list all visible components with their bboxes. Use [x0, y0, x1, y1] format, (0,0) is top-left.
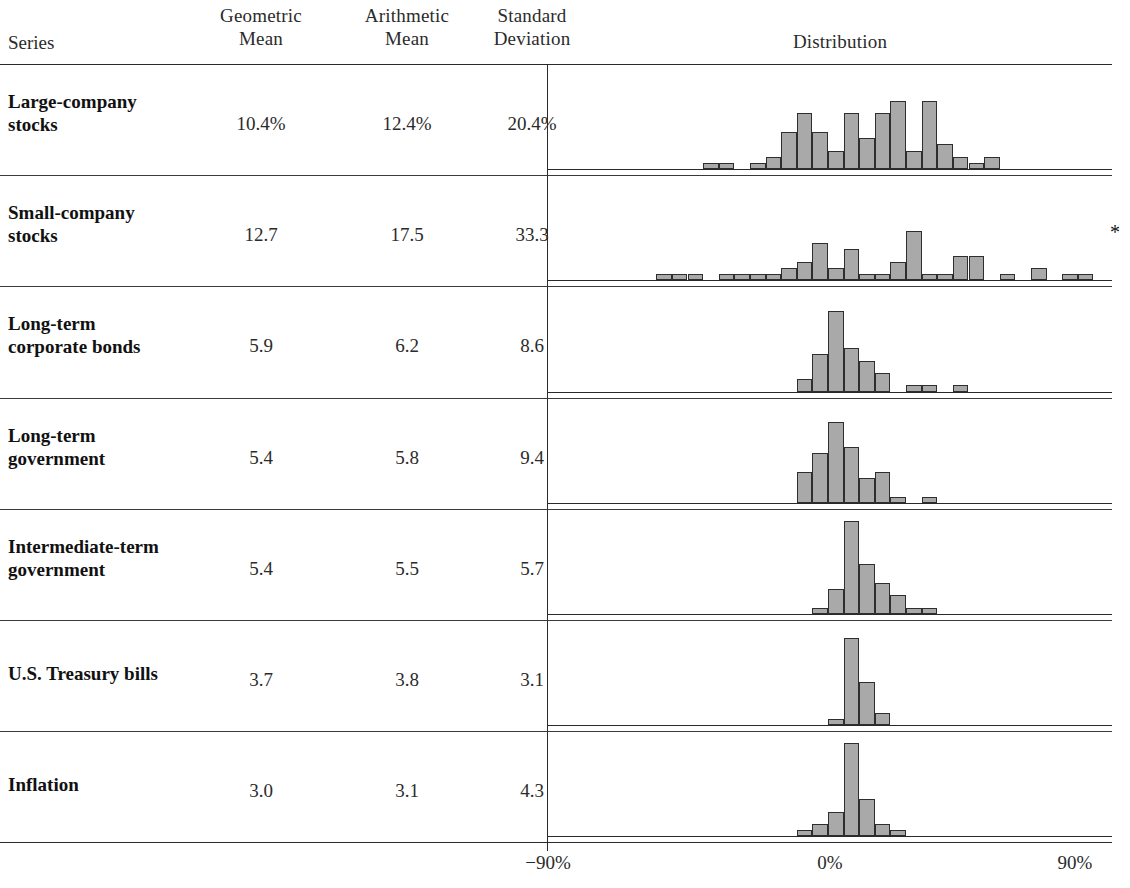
row-label-line2: government [8, 447, 188, 470]
histogram-bar [781, 268, 797, 280]
histogram-bar [859, 564, 875, 614]
distribution-histogram [547, 626, 1112, 725]
histogram-bar [719, 274, 735, 280]
histogram-bar [797, 113, 813, 169]
histogram-bar [906, 151, 922, 170]
histogram-bar [859, 138, 875, 169]
table-row: Long-termcorporate bonds5.96.28.6 [0, 286, 1130, 397]
row-label-line1: Small-company [8, 201, 188, 224]
row-label: Long-termcorporate bonds [8, 312, 188, 358]
cell-geometric-mean: 12.7 [186, 224, 336, 246]
histogram-bar [828, 268, 844, 280]
histogram-bar [719, 163, 735, 169]
row-label: Large-companystocks [8, 90, 188, 136]
histogram-bar [906, 231, 922, 281]
column-header-geometric-mean-line2: Mean [186, 27, 336, 50]
histogram-bar [844, 447, 860, 503]
row-label-line2: stocks [8, 224, 188, 247]
histogram-bar [890, 497, 906, 503]
distribution-histogram [547, 404, 1112, 503]
axis-label-max: 90% [1030, 852, 1120, 874]
histogram-bar [734, 274, 750, 280]
histogram-bar [812, 354, 828, 391]
histogram-bar [812, 132, 828, 169]
axis-label-min: −90% [503, 852, 593, 874]
row-label-line2: government [8, 558, 188, 581]
row-label-line1: U.S. Treasury bills [8, 662, 188, 685]
histogram-bar [672, 274, 688, 280]
cell-geometric-mean: 3.7 [186, 669, 336, 691]
histogram-bar [844, 638, 860, 725]
histogram-bar [844, 521, 860, 614]
histogram-bar [922, 274, 938, 280]
histogram-baseline [547, 836, 1112, 837]
histogram-bar [875, 583, 891, 614]
histogram-bar [875, 472, 891, 503]
histogram-bar [922, 101, 938, 169]
histogram-bar [703, 163, 719, 169]
row-label: Intermediate-termgovernment [8, 535, 188, 581]
histogram-bar [1031, 268, 1047, 280]
histogram-baseline [547, 280, 1112, 281]
axis-baseline [0, 842, 1112, 843]
histogram-bar [890, 595, 906, 614]
histogram-baseline [547, 392, 1112, 393]
histogram-bar [1078, 274, 1094, 280]
histogram-bar [859, 361, 875, 392]
histogram-bar [953, 157, 969, 169]
histogram-table: Series Geometric Mean Arithmetic Mean St… [0, 0, 1130, 888]
row-label-line1: Long-term [8, 424, 188, 447]
row-label: U.S. Treasury bills [8, 662, 188, 685]
histogram-bar [828, 812, 844, 837]
table-row: U.S. Treasury bills3.73.83.1 [0, 620, 1130, 731]
table-row: Intermediate-termgovernment5.45.55.7 [0, 509, 1130, 620]
axis-tick-minus-90 [547, 842, 548, 851]
histogram-bar [875, 113, 891, 169]
histogram-bar [890, 101, 906, 169]
histogram-bar [875, 373, 891, 392]
footnote-asterisk: * [1110, 222, 1120, 242]
histogram-bar [812, 453, 828, 503]
histogram-bar [750, 274, 766, 280]
distribution-histogram [547, 292, 1112, 391]
histogram-bar [906, 608, 922, 614]
histogram-bar [875, 274, 891, 280]
table-row: Long-termgovernment5.45.89.4 [0, 398, 1130, 509]
table-row: Small-companystocks12.717.533.3 [0, 175, 1130, 286]
histogram-bar [828, 311, 844, 392]
histogram-bar [890, 262, 906, 281]
histogram-bar [953, 385, 969, 391]
table-row: Inflation3.03.14.3 [0, 731, 1130, 842]
histogram-bar [922, 497, 938, 503]
histogram-bar [922, 385, 938, 391]
histogram-bar [922, 608, 938, 614]
row-label-line1: Long-term [8, 312, 188, 335]
row-label-line2: corporate bonds [8, 335, 188, 358]
row-label-line1: Large-company [8, 90, 188, 113]
distribution-histogram [547, 70, 1112, 169]
cell-geometric-mean: 5.4 [186, 447, 336, 469]
histogram-bar [828, 589, 844, 614]
row-label: Inflation [8, 773, 188, 796]
row-label: Long-termgovernment [8, 424, 188, 470]
histogram-bar [844, 348, 860, 391]
histogram-bar [859, 682, 875, 725]
histogram-bar [890, 830, 906, 836]
column-header-geometric-mean: Geometric Mean [186, 4, 336, 50]
cell-geometric-mean: 3.0 [186, 780, 336, 802]
histogram-bar [688, 274, 704, 280]
histogram-bar [781, 132, 797, 169]
distribution-histogram [547, 515, 1112, 614]
histogram-bar [844, 113, 860, 169]
histogram-bar [906, 385, 922, 391]
column-header-series: Series [8, 32, 54, 54]
row-label-line2: stocks [8, 113, 188, 136]
histogram-baseline [547, 503, 1112, 504]
histogram-bar [766, 157, 782, 169]
histogram-bar [812, 243, 828, 280]
histogram-baseline [547, 614, 1112, 615]
histogram-bar [766, 274, 782, 280]
column-header-distribution: Distribution [600, 30, 1080, 53]
cell-geometric-mean: 10.4% [186, 113, 336, 135]
table-row: Large-companystocks10.4%12.4%20.4% [0, 64, 1130, 175]
